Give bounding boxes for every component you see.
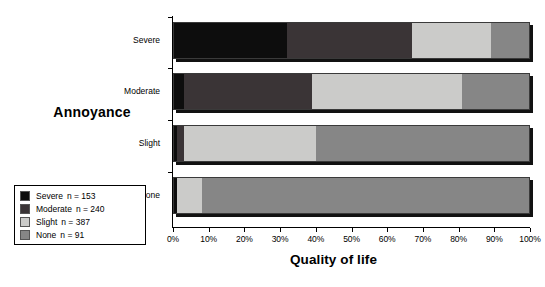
page-edge-artifact [0,283,545,287]
x-axis-tick [209,228,210,232]
bar-stack-moderate [173,73,530,110]
x-axis-tick [352,228,353,232]
bar-segment-moderate [177,125,184,162]
bar-segment-none [202,177,530,214]
legend-count: n = 91 [60,230,84,240]
y-axis-tick [168,120,173,121]
y-axis-title: Annoyance [27,104,157,120]
y-axis-tick [168,68,173,69]
x-axis-tick-label: 80% [450,234,467,244]
x-axis-tick [280,228,281,232]
bar-segment-severe [173,73,184,110]
legend-label: Moderate [36,204,72,214]
bar-segment-slight [412,22,491,59]
legend-item-severe: Severen = 153 [20,189,141,202]
legend-label: Severe [36,191,63,201]
x-axis-tick-label: 90% [486,234,503,244]
x-axis-tick-label: 40% [307,234,324,244]
bar-segment-severe [173,22,287,59]
bar-segment-slight [184,125,316,162]
legend-item-slight: Slightn = 387 [20,215,141,228]
legend-swatch-moderate [20,204,30,214]
legend-count: n = 240 [76,204,105,214]
x-axis-title: Quality of life [290,252,470,267]
category-label-moderate: Moderate [0,86,168,96]
bar-row [173,177,530,214]
legend-swatch-slight [20,217,30,227]
bar-segment-slight [312,73,462,110]
bar-row [173,73,530,110]
x-axis-tick-label: 70% [415,234,432,244]
x-axis-tick [316,228,317,232]
x-axis-tick-label: 20% [236,234,253,244]
stacked-bar-chart: SevereModerateSlightNone 0%10%20%30%40%5… [0,0,545,287]
x-axis-tick [494,228,495,232]
legend-item-none: Nonen = 91 [20,228,141,241]
bar-row [173,125,530,162]
legend-label: None [36,230,56,240]
x-axis-tick [459,228,460,232]
x-axis-tick-label: 0% [167,234,179,244]
bar-stack-severe [173,22,530,59]
x-axis-tick [530,228,531,232]
legend-count: n = 153 [67,191,96,201]
legend-label: Slight [36,217,57,227]
x-axis-tick [423,228,424,232]
y-axis-tick [168,172,173,173]
x-axis-tick [173,228,174,232]
x-axis-tick-label: 50% [343,234,360,244]
x-axis-tick-label: 60% [379,234,396,244]
x-axis-tick-label: 100% [519,234,540,244]
legend-item-moderate: Moderaten = 240 [20,202,141,215]
y-axis-tick [168,17,173,18]
x-axis-tick [244,228,245,232]
bar-segment-moderate [287,22,412,59]
legend-swatch-severe [20,191,30,201]
x-axis-tick [387,228,388,232]
legend-swatch-none [20,230,30,240]
bar-row [173,22,530,59]
chart-legend: Severen = 153Moderaten = 240Slightn = 38… [14,185,146,245]
bar-segment-slight [177,177,202,214]
bar-segment-none [491,22,530,59]
category-label-severe: Severe [0,35,168,45]
legend-count: n = 387 [61,217,90,227]
category-label-slight: Slight [0,138,168,148]
bar-segment-moderate [184,73,313,110]
x-axis-tick-label: 30% [272,234,289,244]
bar-stack-none [173,177,530,214]
bar-segment-none [316,125,530,162]
bar-stack-slight [173,125,530,162]
x-axis-tick-label: 10% [200,234,217,244]
bar-segment-none [462,73,530,110]
